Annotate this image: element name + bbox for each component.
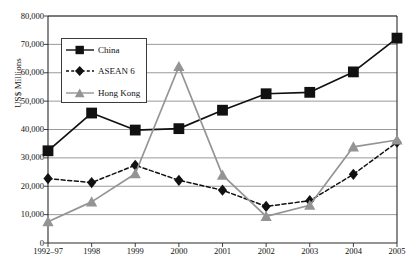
y-tick-marks	[44, 16, 48, 243]
x-tick-label: 1998	[83, 247, 100, 256]
legend-label-asean-6: ASEAN 6	[98, 66, 135, 76]
diamond-marker-icon	[65, 65, 95, 77]
x-tick-label: 2001	[214, 247, 231, 256]
legend-item-hong-kong: Hong Kong	[62, 82, 146, 104]
x-tick-label: 2003	[301, 247, 318, 256]
x-axis-tick-labels: 1992–9719981999200020012002200320042005	[0, 247, 417, 265]
x-tick-label: 1999	[127, 247, 144, 256]
legend-item-china: China	[62, 39, 146, 61]
triangle-marker-icon	[65, 87, 95, 99]
x-tick-label: 2002	[258, 247, 275, 256]
legend-item-asean-6: ASEAN 6	[62, 61, 146, 83]
x-tick-label: 2000	[170, 247, 187, 256]
x-tick-label: 2004	[345, 247, 362, 256]
chart-legend: China ASEAN 6 Hong Kong	[61, 38, 147, 103]
x-tick-label: 2005	[389, 247, 406, 256]
square-marker-icon	[65, 44, 95, 56]
x-tick-label: 1992–97	[33, 247, 63, 256]
fdi-line-chart: US$ Millions 80,00070,00060,00050,00040,…	[0, 0, 417, 272]
legend-label-hong-kong: Hong Kong	[98, 88, 140, 98]
legend-label-china: China	[98, 45, 120, 55]
